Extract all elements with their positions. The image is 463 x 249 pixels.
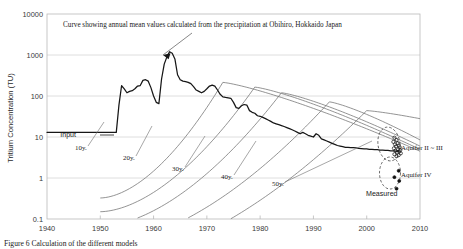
aquifer-iv-label: Aquifer IV <box>401 171 431 178</box>
figure-caption: Figure 6 Calculation of the different mo… <box>4 239 138 248</box>
model-label-30y: 30y. <box>172 165 184 172</box>
aquifer-ii-iii-label: Aquifer II ~ III <box>401 144 444 151</box>
x-tick-2000: 2000 <box>358 224 374 233</box>
x-tick-2010: 2010 <box>412 224 428 233</box>
y-tick-10000: 10000 <box>22 10 43 19</box>
x-tick-1940: 1940 <box>39 224 55 233</box>
x-tick-1970: 1970 <box>199 224 215 233</box>
chart-background <box>0 0 463 249</box>
x-tick-1960: 1960 <box>145 224 161 233</box>
y-tick-1: 1 <box>39 174 43 183</box>
figure-container: 1000010001001010.1 194019501960197019801… <box>0 0 463 249</box>
model-label-40y: 40y. <box>221 173 233 180</box>
chart-annotation-text: Curve showing annual mean values calcula… <box>63 21 342 29</box>
model-label-20y: 20y. <box>123 154 135 161</box>
y-tick-10: 10 <box>35 133 43 142</box>
tritium-concentration-chart: 1000010001001010.1 194019501960197019801… <box>0 0 463 249</box>
y-tick-1000: 1000 <box>27 51 43 60</box>
measured-label: Measured <box>366 190 398 198</box>
y-axis-title: Tritium Concentration (TU) <box>6 73 15 163</box>
model-label-10y: 10y. <box>75 144 87 151</box>
x-tick-1950: 1950 <box>92 224 108 233</box>
x-tick-1980: 1980 <box>252 224 268 233</box>
measured-point-g1-0 <box>397 169 400 172</box>
x-tick-1990: 1990 <box>305 224 321 233</box>
model-label-50y: 50y. <box>272 180 284 187</box>
y-tick-0.1: 0.1 <box>33 215 43 224</box>
y-tick-100: 100 <box>31 92 43 101</box>
input-series-label: Input <box>60 131 76 139</box>
measured-point-g1-1 <box>393 176 396 179</box>
